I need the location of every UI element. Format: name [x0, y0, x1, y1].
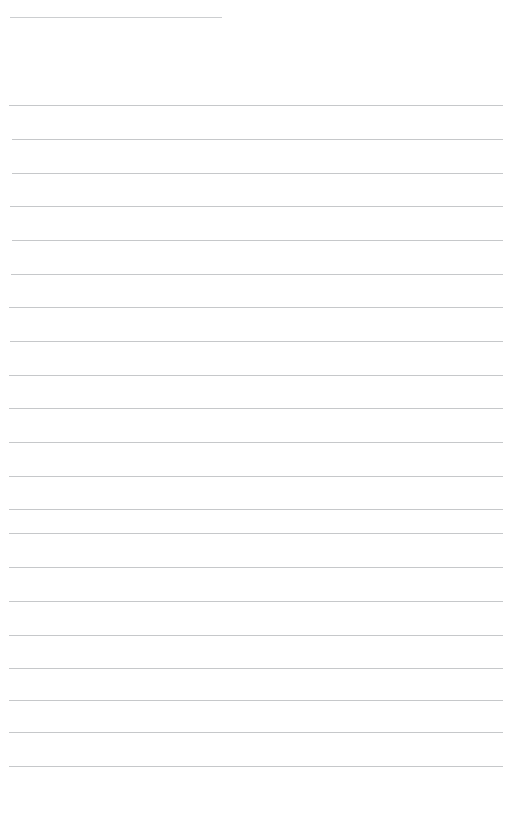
ruled-line	[10, 341, 503, 342]
ruled-line	[12, 139, 503, 140]
ruled-line	[9, 601, 503, 602]
ruled-line	[9, 442, 503, 443]
ruled-line	[9, 509, 503, 510]
ruled-line	[9, 732, 503, 733]
ruled-line	[9, 476, 503, 477]
ruled-line	[12, 240, 503, 241]
ruled-line	[9, 668, 503, 669]
ruled-line	[12, 173, 503, 174]
header-text-row	[0, 53, 531, 65]
ruled-line	[9, 766, 503, 767]
document-page	[0, 0, 531, 818]
ruled-line	[9, 700, 503, 701]
ruled-line	[9, 635, 503, 636]
ruled-line	[9, 533, 503, 534]
ruled-line	[9, 408, 503, 409]
ruled-line	[9, 567, 503, 568]
ruled-line	[11, 274, 503, 275]
ruled-line	[9, 105, 503, 106]
ruled-line	[9, 307, 503, 308]
ruled-line	[9, 375, 503, 376]
ruled-line	[10, 206, 503, 207]
top-divider-rule	[10, 17, 222, 18]
